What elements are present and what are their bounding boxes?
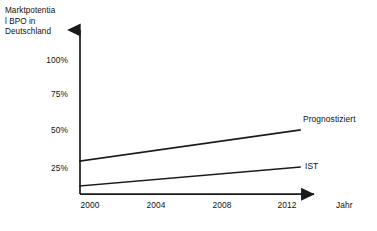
series-line-prognostiziert [80, 130, 300, 161]
x-tick-label: 2012 [267, 200, 307, 210]
series-label-ist: IST [305, 161, 318, 171]
series-label-prognostiziert: Prognostiziert [303, 114, 356, 124]
series-line-ist [80, 167, 300, 186]
x-tick-label: 2004 [136, 200, 176, 210]
chart-canvas: Marktpotential BPO inDeutschland 100% 75… [0, 0, 377, 231]
x-axis-title: Jahr [336, 200, 353, 210]
x-tick-label: 2000 [70, 200, 110, 210]
x-tick-label: 2008 [202, 200, 242, 210]
